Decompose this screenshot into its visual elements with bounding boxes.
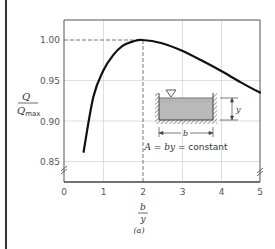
x-label-denominator: y bbox=[139, 214, 146, 224]
x-tick-label: 3 bbox=[180, 187, 186, 197]
right-wall-hatch bbox=[213, 93, 217, 120]
y-label-numerator: Q bbox=[22, 91, 30, 102]
x-tick-label: 1 bbox=[101, 187, 107, 197]
inset-caption: A = by = constant bbox=[143, 142, 227, 152]
y-tick-label: 0.95 bbox=[40, 76, 60, 86]
water-surface-triangle-icon bbox=[166, 90, 176, 97]
x-tick-label: 5 bbox=[257, 187, 263, 197]
x-tick-label: 0 bbox=[61, 187, 67, 197]
axis-break-icon bbox=[61, 166, 263, 176]
depth-label: y bbox=[235, 105, 241, 114]
x-tick-labels: 0 1 2 3 4 5 bbox=[61, 187, 263, 197]
figure: 1.00 0.95 0.90 0.85 0 1 2 3 4 5 Q Qmax b… bbox=[0, 0, 275, 249]
left-wall-hatch bbox=[155, 93, 159, 120]
y-axis-label: Q Qmax bbox=[17, 91, 40, 118]
x-axis-label: b y bbox=[138, 202, 148, 224]
y-tick-labels: 1.00 0.95 0.90 0.85 bbox=[40, 35, 60, 167]
x-tick-label: 2 bbox=[140, 187, 146, 197]
x-label-numerator: b bbox=[140, 202, 146, 212]
y-label-denominator: Qmax bbox=[17, 105, 40, 118]
water-body bbox=[159, 98, 213, 120]
y-tick-label: 0.85 bbox=[40, 157, 60, 167]
bed-hatch bbox=[155, 120, 217, 124]
y-tick-label: 1.00 bbox=[40, 35, 60, 45]
panel-label: (a) bbox=[133, 226, 144, 235]
width-label: b bbox=[183, 129, 188, 138]
y-tick-label: 0.90 bbox=[40, 117, 60, 127]
x-tick-label: 4 bbox=[219, 187, 225, 197]
